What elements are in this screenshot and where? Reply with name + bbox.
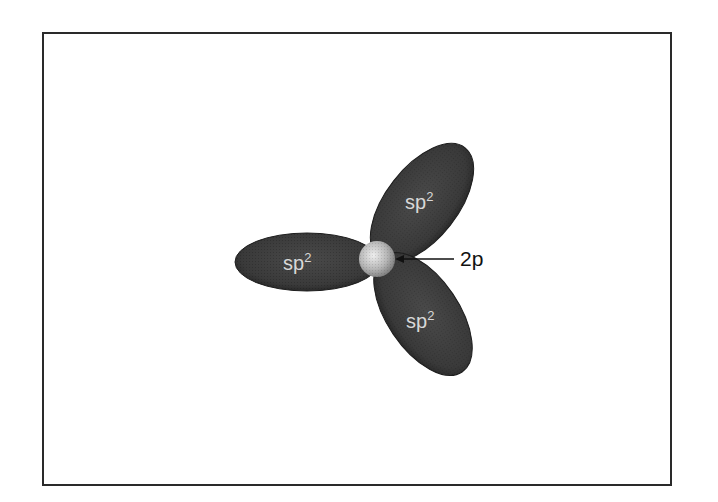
arrow-2p (395, 255, 454, 263)
orbital-diagram: sp2 sp2 sp2 2p (0, 0, 718, 502)
nucleus-sphere (359, 241, 395, 277)
label-2p: 2p (460, 247, 483, 270)
